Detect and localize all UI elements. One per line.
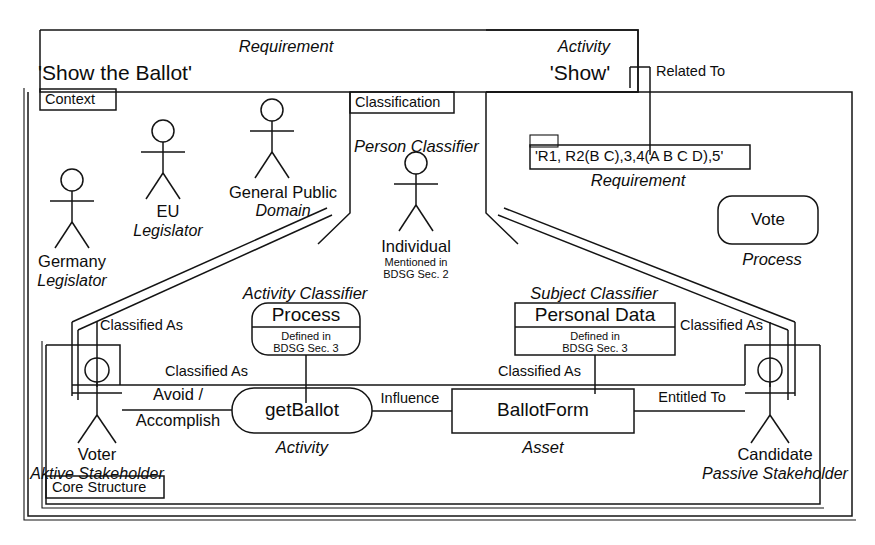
process-box-line1: Defined in: [281, 330, 331, 342]
requirement-note-text: 'R1, R2(B C),3,4(A B C D),5': [535, 147, 723, 164]
ballot-form-box: BallotForm Asset: [452, 389, 634, 456]
related-to-edge: [630, 67, 650, 155]
actor-voter-name: Voter: [78, 445, 117, 463]
personal-data-name: Personal Data: [535, 304, 656, 325]
personal-data-box: Personal Data Defined in BDSG Sec. 3: [515, 303, 675, 355]
classified-as-label-1: Classified As: [100, 317, 183, 333]
actor-individual-name: Individual: [381, 237, 451, 255]
requirement-name: 'Show the Ballot': [38, 61, 192, 84]
diagram-canvas: Context Classification Requirement 'Show…: [0, 0, 875, 545]
process-box-line2: BDSG Sec. 3: [273, 342, 338, 354]
voter-region-bracket: [46, 345, 120, 385]
influence-label: Influence: [381, 390, 440, 406]
actor-candidate-stereotype: Passive Stakeholder: [702, 465, 849, 482]
activity-stereotype: Activity: [557, 37, 612, 55]
context-tab-label: Context: [45, 91, 95, 107]
actor-individual-stereotype2: BDSG Sec. 2: [383, 268, 448, 280]
actor-voter-stereotype: Aktive Stakeholder: [29, 465, 164, 482]
classified-as-label-2: Classified As: [165, 363, 248, 379]
subject-classifier-label: Subject Classifier: [530, 284, 659, 302]
requirement-stereotype: Requirement: [239, 37, 335, 55]
actor-general-public-stereotype: Domain: [255, 202, 310, 219]
actor-eu: [141, 120, 185, 199]
classified-as-label-3: Classified As: [498, 363, 581, 379]
vote-name: Vote: [751, 210, 785, 229]
actor-germany-stereotype: Legislator: [37, 272, 107, 289]
actor-candidate-name: Candidate: [737, 445, 812, 463]
process-box-name: Process: [272, 304, 341, 325]
ballot-form-stereotype: Asset: [521, 438, 565, 456]
get-ballot-box: getBallot Activity: [232, 388, 372, 456]
actor-eu-stereotype: Legislator: [133, 222, 203, 239]
actor-general-public-name: General Public: [229, 183, 337, 201]
requirement-note-box: 'R1, R2(B C),3,4(A B C D),5' Requirement: [530, 135, 750, 189]
classification-frame: [318, 92, 518, 244]
candidate-region-bracket: [745, 345, 820, 385]
avoid-label: Avoid /: [153, 385, 204, 403]
actor-eu-name: EU: [157, 202, 180, 220]
activity-classifier-label: Activity Classifier: [242, 284, 369, 302]
actor-general-public: [250, 99, 294, 178]
diagram-svg: Context Classification Requirement 'Show…: [0, 0, 875, 545]
vote-stereotype: Process: [742, 250, 802, 268]
classified-as-label-4: Classified As: [680, 317, 763, 333]
get-ballot-stereotype: Activity: [275, 438, 330, 456]
actor-individual: [394, 152, 438, 231]
process-box: Process Defined in BDSG Sec. 3: [252, 303, 360, 355]
entitled-to-label: Entitled To: [658, 389, 725, 405]
actor-germany: [50, 169, 94, 248]
requirement-note-stereotype: Requirement: [591, 171, 687, 189]
get-ballot-name: getBallot: [265, 399, 340, 420]
ballot-form-name: BallotForm: [497, 399, 589, 420]
classification-tab: Classification: [350, 92, 454, 113]
personal-data-line1: Defined in: [570, 330, 620, 342]
classification-tab-label: Classification: [355, 94, 440, 110]
activity-name: 'Show': [550, 61, 611, 84]
actor-individual-stereotype: Mentioned in: [385, 256, 448, 268]
accomplish-label: Accomplish: [136, 411, 220, 429]
vote-box: Vote Process: [718, 196, 818, 268]
related-to-label: Related To: [656, 63, 725, 79]
actor-germany-name: Germany: [38, 252, 107, 270]
personal-data-line2: BDSG Sec. 3: [562, 342, 627, 354]
